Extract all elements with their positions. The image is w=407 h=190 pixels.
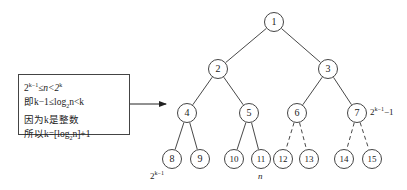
tree-node-15: 15 [362, 149, 382, 169]
edge-3-6 [303, 77, 322, 105]
box-line-2: 即k−1≤log2n<k [24, 95, 124, 113]
edge-1-2 [226, 28, 267, 62]
tree-node-4: 4 [177, 103, 197, 123]
edge-5-11 [252, 123, 259, 150]
explanation-box: 2k−1≤n<2k 即k−1≤log2n<k 因为k是整数 所以k=[log2n… [18, 74, 130, 135]
node-7-label: 2k−1−1 [370, 106, 393, 117]
box-line-3: 因为k是整数 [24, 113, 124, 127]
node-8-label: 2k−1 [150, 170, 164, 181]
edge-2-4 [193, 77, 212, 105]
edge-7-15 [360, 123, 369, 150]
tree-node-11: 11 [251, 149, 271, 169]
diagram-canvas: 123456789101112131415 2k−1≤n<2k 即k−1≤log… [0, 0, 407, 190]
edge-1-3 [282, 29, 321, 63]
edge-5-10 [237, 123, 246, 150]
tree-node-13: 13 [299, 149, 319, 169]
edge-2-5 [224, 77, 243, 105]
edge-3-7 [334, 77, 352, 104]
tree-node-10: 10 [224, 149, 244, 169]
tree-node-5: 5 [239, 103, 259, 123]
edge-4-8 [175, 123, 184, 150]
edge-4-9 [190, 123, 198, 150]
tree-node-7: 7 [347, 103, 367, 123]
tree-node-14: 14 [334, 149, 354, 169]
tree-node-2: 2 [208, 59, 228, 79]
tree-node-6: 6 [287, 103, 307, 123]
edge-7-14 [347, 123, 355, 150]
edge-6-13 [300, 123, 307, 150]
tree-node-9: 9 [190, 149, 210, 169]
edge-6-12 [286, 123, 294, 150]
tree-node-3: 3 [318, 59, 338, 79]
tree-node-12: 12 [273, 149, 293, 169]
box-line-1: 2k−1≤n<2k [24, 78, 124, 95]
tree-node-8: 8 [162, 149, 182, 169]
node-11-label: n [258, 171, 263, 181]
box-line-4: 所以k=[log2n]+1 [24, 127, 124, 145]
tree-node-1: 1 [264, 12, 284, 32]
